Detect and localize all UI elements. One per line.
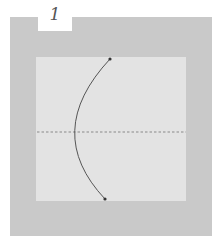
curved-fold-line xyxy=(75,59,110,199)
fold-diagram xyxy=(0,0,221,241)
top-endpoint xyxy=(108,57,111,60)
bottom-endpoint xyxy=(103,197,106,200)
